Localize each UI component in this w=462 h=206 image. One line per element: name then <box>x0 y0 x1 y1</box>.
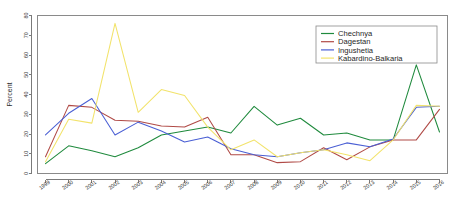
x-tick-label: 2002 <box>107 179 120 191</box>
x-tick-label: 1999 <box>38 179 51 191</box>
x-tick-label: 2004 <box>154 179 167 191</box>
y-tick-label: 30 <box>23 111 29 117</box>
x-tick-label: 2016 <box>432 179 445 191</box>
x-tick-label: 2003 <box>130 179 143 191</box>
chart-legend: ChechnyaDagestanIngushetiaKabardino-Balk… <box>316 26 437 63</box>
x-tick-label: 2010 <box>293 179 306 191</box>
y-tick-label: 70 <box>23 32 29 38</box>
x-tick-label: 2000 <box>61 179 74 191</box>
x-axis: 1999200020012002200320042005200620072008… <box>38 179 445 191</box>
y-axis-title: Percent <box>6 82 13 106</box>
x-tick-label: 2006 <box>200 179 213 191</box>
x-tick-label: 2005 <box>177 179 190 191</box>
x-tick-label: 2014 <box>385 179 398 191</box>
y-axis: 01020304050607080 <box>23 13 32 176</box>
y-tick-label: 60 <box>23 52 29 58</box>
x-tick-label: 2008 <box>246 179 259 191</box>
y-tick-label: 10 <box>23 151 29 157</box>
legend-label-kabardino-balkaria: Kabardino-Balkaria <box>338 54 403 63</box>
x-tick-label: 2011 <box>316 179 329 191</box>
y-tick-label: 80 <box>23 13 29 19</box>
x-tick-label: 2015 <box>409 179 422 191</box>
y-tick-label: 40 <box>23 92 29 98</box>
y-tick-label: 0 <box>23 172 29 175</box>
line-chart: 01020304050607080 1999200020012002200320… <box>0 0 462 206</box>
x-tick-label: 2013 <box>362 179 375 191</box>
x-tick-label: 2012 <box>339 179 352 191</box>
y-tick-label: 20 <box>23 131 29 137</box>
series-line-ingushetia <box>46 98 440 156</box>
chart-canvas: 01020304050607080 1999200020012002200320… <box>0 0 462 206</box>
x-tick-label: 2001 <box>84 179 97 191</box>
x-tick-label: 2007 <box>223 179 236 191</box>
x-tick-label: 2009 <box>269 179 282 191</box>
y-tick-label: 50 <box>23 72 29 78</box>
